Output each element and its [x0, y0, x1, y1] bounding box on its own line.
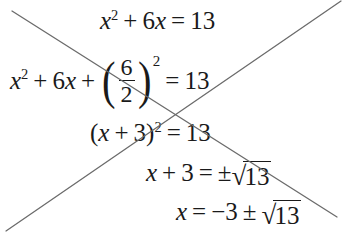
line5-constant-3: 3: [225, 198, 238, 225]
equation-line-4: x+3=±√13: [146, 160, 271, 190]
line1-plus-operator: +: [118, 8, 142, 33]
line5-plus-minus-sign: ±: [238, 199, 262, 224]
line4-plus-operator: +: [157, 160, 181, 185]
line4-equals-sign: =: [194, 160, 218, 185]
equation-line-1: x2+6x=13: [100, 8, 215, 33]
line2-paren-exponent: 2: [153, 54, 161, 69]
line1-equals-sign: =: [166, 8, 190, 33]
line4-radical: √13: [232, 161, 272, 190]
line5-radicand: 13: [273, 200, 301, 228]
line5-radical: √13: [262, 200, 302, 229]
line5-x-variable: x: [176, 198, 187, 225]
line1-right-side: 13: [190, 7, 215, 34]
line5-equals-sign: =: [187, 199, 211, 224]
line2-open-paren: (: [102, 65, 116, 97]
worksheet-canvas: x2+6x=13 x2+6x+(62)2=13 (x+3)2=13 x+3=±√…: [0, 0, 344, 237]
line4-x-variable: x: [146, 159, 157, 186]
line2-fraction: 62: [118, 55, 136, 107]
line3-equals-sign: =: [162, 120, 186, 145]
line2-term-variable: x: [65, 67, 76, 94]
line1-x-variable: x: [100, 7, 111, 34]
equation-line-2: x2+6x+(62)2=13: [10, 57, 209, 109]
line2-fraction-numerator: 6: [118, 55, 136, 80]
line2-close-paren: ): [137, 65, 151, 97]
line3-x-variable: x: [98, 119, 109, 146]
line2-right-side: 13: [184, 67, 209, 94]
line2-coefficient-6: 6: [52, 67, 65, 94]
line2-equals-sign: =: [160, 68, 184, 93]
equation-line-3: (x+3)2=13: [90, 120, 211, 145]
line4-plus-minus-sign: ±: [218, 159, 232, 186]
line1-coefficient-6: 6: [142, 7, 155, 34]
line4-radicand: 13: [243, 161, 271, 189]
line5-minus-sign: −: [211, 198, 225, 225]
line3-right-side: 13: [186, 119, 211, 146]
line2-x-variable: x: [10, 67, 21, 94]
line4-constant-3: 3: [181, 159, 194, 186]
line1-x-exponent: 2: [111, 7, 118, 23]
line3-constant-3: 3: [134, 119, 147, 146]
line2-fraction-group: (62)2: [100, 56, 160, 108]
ascending-strike-line: [6, 1, 341, 231]
line2-fraction-denominator: 2: [118, 81, 136, 106]
line2-plus-operator-2: +: [76, 68, 100, 93]
line2-plus-operator-1: +: [28, 68, 52, 93]
line1-term-variable: x: [155, 7, 166, 34]
line3-exponent: 2: [154, 119, 161, 135]
equation-line-5: x=−3±√13: [176, 199, 301, 229]
line3-plus-operator: +: [109, 120, 133, 145]
line2-x-exponent: 2: [21, 66, 28, 82]
